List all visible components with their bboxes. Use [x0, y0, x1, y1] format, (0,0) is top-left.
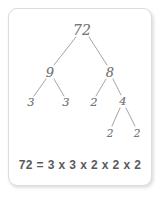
tree-node-l2a: 3 — [27, 97, 34, 109]
tree-node-l2c: 2 — [90, 97, 97, 109]
tree-node-l3a: 2 — [107, 128, 114, 139]
tree-node-l2d: 4 — [119, 96, 126, 108]
tree-node-l1b: 8 — [106, 66, 114, 79]
screenshot-root: 7298332422 72 = 3 x 3 x 2 x 2 x 2 — [0, 0, 164, 197]
tree-node-root: 72 — [73, 23, 91, 37]
tree-node-l1a: 9 — [46, 66, 54, 79]
factorization-equation: 72 = 3 x 3 x 2 x 2 x 2 — [8, 158, 152, 172]
tree-node-l3b: 2 — [134, 128, 141, 139]
tree-node-l2b: 3 — [62, 97, 69, 109]
